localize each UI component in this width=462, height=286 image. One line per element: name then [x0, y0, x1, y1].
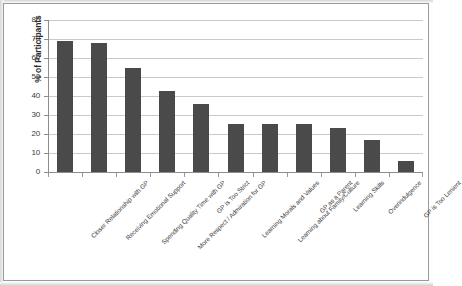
bar[interactable]: [330, 128, 346, 172]
y-axis-tick-label: 30: [16, 110, 40, 119]
bar-series: [48, 20, 423, 172]
bar[interactable]: [398, 161, 414, 172]
x-axis-tick-mark: [321, 173, 322, 177]
x-axis-tick-mark: [422, 173, 423, 177]
y-axis-tick-label: 0: [16, 167, 40, 176]
x-axis-tick-mark: [389, 173, 390, 177]
bar[interactable]: [125, 68, 141, 172]
bar[interactable]: [57, 41, 73, 172]
x-axis-tick-mark: [150, 173, 151, 177]
x-axis-tick-mark: [116, 173, 117, 177]
y-axis-tick-label: 60: [16, 53, 40, 62]
x-axis-tick-mark: [82, 173, 83, 177]
y-axis-tick-label: 70: [16, 34, 40, 43]
y-axis-tick-label: 80: [16, 15, 40, 24]
y-axis-tick-label: 10: [16, 148, 40, 157]
x-axis-category-label: More Respect / Admiration for GP: [196, 179, 267, 250]
bar[interactable]: [91, 43, 107, 172]
x-axis-category-label: GP is Too Lenient: [422, 179, 462, 219]
y-axis-tick-label: 40: [16, 91, 40, 100]
bar[interactable]: [364, 140, 380, 172]
bar[interactable]: [262, 124, 278, 172]
y-axis-tick-label: 20: [16, 129, 40, 138]
x-axis-tick-mark: [184, 173, 185, 177]
bar[interactable]: [159, 91, 175, 172]
x-axis-tick-mark: [355, 173, 356, 177]
x-axis-tick-marks: [48, 173, 423, 177]
x-axis-tick-mark: [48, 173, 49, 177]
x-axis-tick-mark: [253, 173, 254, 177]
x-axis-category-label: Closer Relationship with GP: [89, 179, 149, 239]
x-axis-tick-mark: [287, 173, 288, 177]
bar[interactable]: [193, 104, 209, 172]
x-axis-category-label: Overindulgence: [386, 179, 422, 215]
bar[interactable]: [228, 124, 244, 172]
x-axis-tick-mark: [218, 173, 219, 177]
y-axis-tick-label: 50: [16, 72, 40, 81]
bar[interactable]: [296, 124, 312, 172]
